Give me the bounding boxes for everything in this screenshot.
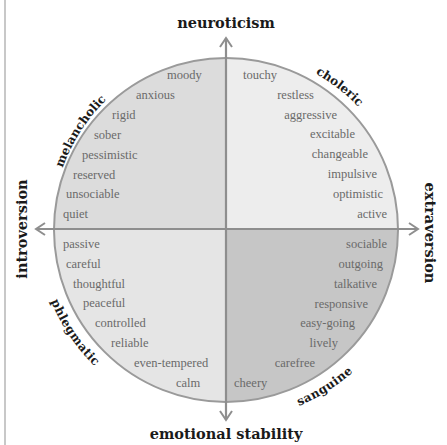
trait-peaceful: peaceful bbox=[83, 296, 125, 310]
quadrant-melancholic bbox=[54, 58, 226, 230]
trait-passive: passive bbox=[63, 237, 100, 251]
axis-label-introversion: introversion bbox=[14, 179, 30, 279]
trait-aggressive: aggressive bbox=[284, 108, 337, 122]
temperament-diagram: melancholic choleric phlegmatic sanguine… bbox=[0, 0, 447, 445]
trait-lively: lively bbox=[310, 336, 338, 350]
quadrant-choleric bbox=[226, 58, 398, 230]
trait-anxious: anxious bbox=[136, 88, 175, 102]
trait-excitable: excitable bbox=[310, 127, 355, 141]
axis-label-extraversion: extraversion bbox=[422, 181, 438, 285]
trait-quiet: quiet bbox=[63, 207, 88, 221]
trait-touchy: touchy bbox=[243, 68, 277, 82]
trait-active: active bbox=[357, 207, 387, 221]
trait-unsociable: unsociable bbox=[66, 187, 119, 201]
trait-easy-going: easy-going bbox=[300, 316, 355, 330]
trait-impulsive: impulsive bbox=[328, 167, 377, 181]
circle-graphic: melancholic choleric phlegmatic sanguine bbox=[0, 0, 447, 445]
trait-optimistic: optimistic bbox=[333, 187, 383, 201]
trait-carefree: carefree bbox=[275, 356, 315, 370]
trait-outgoing: outgoing bbox=[339, 257, 383, 271]
trait-even-tempered: even-tempered bbox=[134, 356, 208, 370]
trait-responsive: responsive bbox=[315, 297, 368, 311]
trait-changeable: changeable bbox=[312, 147, 368, 161]
trait-cheery: cheery bbox=[234, 376, 267, 390]
trait-reserved: reserved bbox=[73, 168, 115, 182]
trait-restless: restless bbox=[277, 88, 314, 102]
trait-careful: careful bbox=[66, 257, 101, 271]
axis-label-emotional-stability: emotional stability bbox=[136, 426, 316, 442]
trait-moody: moody bbox=[167, 68, 202, 82]
trait-sober: sober bbox=[94, 128, 121, 142]
trait-sociable: sociable bbox=[346, 237, 387, 251]
trait-controlled: controlled bbox=[95, 316, 146, 330]
trait-talkative: talkative bbox=[334, 277, 377, 291]
trait-pessimistic: pessimistic bbox=[82, 148, 138, 162]
trait-calm: calm bbox=[176, 376, 200, 390]
axis-label-neuroticism: neuroticism bbox=[176, 15, 276, 31]
trait-rigid: rigid bbox=[112, 108, 136, 122]
trait-reliable: reliable bbox=[111, 336, 148, 350]
trait-thoughtful: thoughtful bbox=[73, 277, 125, 291]
